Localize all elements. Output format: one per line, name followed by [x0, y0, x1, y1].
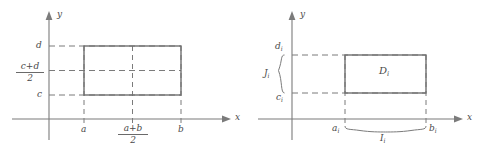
- brace-label-J-i: Ji: [264, 69, 270, 79]
- x-tick-label-mid-fraction: a+b 2: [118, 124, 148, 145]
- x-tick-label-ai: ai: [332, 124, 339, 134]
- x-tick-label-b: b: [178, 125, 184, 134]
- y-tick-label-di: di: [275, 42, 283, 52]
- x-axis-label: x: [235, 113, 240, 122]
- y-axis-label: y: [300, 10, 305, 19]
- x-axis-label: x: [467, 113, 472, 122]
- horizontal-brace-I-i: [345, 126, 426, 132]
- figure-root: y x d c+d 2 c a a+b 2 b: [0, 0, 488, 150]
- diagram-panel-right: y x di ci ai bi Ji Ii Di: [244, 0, 488, 150]
- x-tick-bi-subscript: i: [435, 127, 437, 134]
- y-tick-label-d: d: [36, 41, 42, 50]
- x-axis-arrowhead: [222, 116, 231, 123]
- y-tick-mid-denominator: 2: [16, 73, 44, 83]
- x-tick-mid-denominator: 2: [118, 135, 148, 145]
- y-tick-label-c: c: [37, 90, 42, 99]
- region-D-subscript: i: [387, 70, 389, 78]
- x-tick-mid-numerator: a+b: [118, 124, 148, 135]
- y-axis-arrowhead: [289, 11, 296, 20]
- brace-label-I-i: Ii: [380, 134, 386, 144]
- region-label-D-i: Di: [379, 66, 389, 77]
- x-tick-label-a: a: [81, 125, 86, 134]
- x-axis-arrowhead: [454, 116, 463, 123]
- vertical-brace-J-i: [279, 55, 285, 93]
- y-tick-mid-numerator: c+d: [16, 62, 44, 73]
- y-axis-arrowhead: [46, 11, 53, 20]
- y-axis-label: y: [57, 10, 62, 19]
- x-tick-ai-subscript: i: [337, 127, 339, 134]
- region-D-base: D: [379, 65, 387, 76]
- y-tick-ci-subscript: i: [281, 96, 283, 103]
- x-tick-label-bi: bi: [429, 124, 437, 134]
- right-diagram-svg: [244, 0, 488, 150]
- y-tick-di-subscript: i: [281, 45, 283, 52]
- y-tick-label-mid-fraction: c+d 2: [16, 62, 44, 83]
- y-tick-label-ci: ci: [276, 93, 283, 103]
- diagram-panel-left: y x d c+d 2 c a a+b 2 b: [0, 0, 244, 150]
- brace-J-subscript: i: [268, 72, 270, 79]
- brace-I-subscript: i: [384, 137, 386, 144]
